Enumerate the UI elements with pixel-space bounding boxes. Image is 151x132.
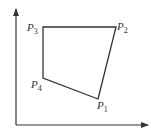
diagram-canvas: P1P2P3P4 — [0, 0, 151, 132]
label-p2: P2 — [116, 20, 128, 35]
point-labels: P1P2P3P4 — [26, 20, 128, 114]
label-p1: P1 — [96, 99, 108, 114]
label-p4: P4 — [30, 78, 42, 93]
quadrilateral-p1-p2-p3-p4 — [43, 27, 116, 99]
label-p3: P3 — [26, 21, 38, 36]
